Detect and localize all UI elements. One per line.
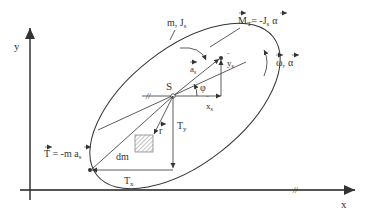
- parallel-mark: //: [145, 92, 151, 101]
- mass-element: [135, 135, 153, 152]
- inertia-moment-leader: [210, 28, 240, 47]
- rotation-label: ω,α: [276, 57, 294, 68]
- x-axis-label: x: [341, 198, 347, 210]
- rotation-arc: [264, 50, 267, 76]
- mass-label-leader: [170, 30, 175, 40]
- rigid-body-diagram: x y // m, Js // as xs ¨ ys ¨ φ MT= -Jsα …: [0, 0, 371, 215]
- x-acceleration-dots: ¨: [206, 94, 209, 103]
- inertia-moment-arc: [180, 48, 206, 60]
- acceleration-label: as: [190, 64, 197, 75]
- position-vector: [154, 96, 173, 134]
- coordinate-axes: x y //: [14, 28, 355, 210]
- inertia-force-Ty-label: Ty: [177, 120, 187, 133]
- inertia-force-point: [88, 168, 92, 172]
- mass-element-label: dm: [116, 151, 129, 162]
- y-acceleration-dots: ¨: [227, 51, 230, 60]
- angle-label: φ: [200, 82, 206, 93]
- acceleration-point: [219, 56, 223, 60]
- inertia-force-label: T = -m as: [44, 148, 82, 161]
- mass-label: m, Js: [167, 17, 187, 30]
- rigid-body-ellipse: [61, 0, 309, 215]
- y-axis-label: y: [14, 40, 20, 52]
- inertia-force-Tx-label: Tx: [124, 175, 134, 188]
- center-of-mass-label: S: [166, 80, 172, 92]
- x-axis-break-mark: //: [292, 186, 298, 195]
- position-vector-label: r: [159, 125, 163, 136]
